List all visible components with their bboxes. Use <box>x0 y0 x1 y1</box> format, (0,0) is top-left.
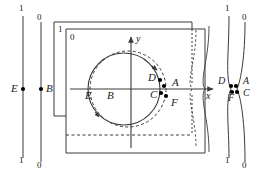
left-line-1-bottom-label: 1 <box>19 156 24 165</box>
point-F-circle <box>164 94 168 98</box>
label-D-right: D <box>218 76 225 86</box>
right-line-1-bottom-label: 1 <box>225 156 230 165</box>
label-C-circle: C <box>150 89 157 100</box>
point-D-circle <box>158 78 162 82</box>
label-B-circle: B <box>107 90 114 101</box>
label-F-circle: F <box>171 97 178 108</box>
label-E-circle: E <box>85 90 92 101</box>
point-A-circle <box>162 84 166 88</box>
label-F-right: F <box>228 93 234 103</box>
x-axis-label: x <box>206 91 210 101</box>
figure-diagram: 1 1 0 0 E B 1 0 y x D A C F E B 1 1 0 0 … <box>0 0 262 175</box>
point-A-right <box>234 84 238 88</box>
label-B-left: B <box>46 83 53 94</box>
label-C-right: C <box>243 88 250 98</box>
label-A-right: A <box>243 76 249 86</box>
left-line-1-top-label: 1 <box>19 4 24 13</box>
left-line-0-top-label: 0 <box>37 13 42 22</box>
right-line-1-top-label: 1 <box>225 4 230 13</box>
label-D-circle: D <box>148 72 156 83</box>
diagram-canvas <box>0 0 262 175</box>
point-C-right <box>235 90 239 94</box>
rect-front-label: 0 <box>70 33 75 42</box>
point-B-left <box>39 87 43 91</box>
y-axis-label: y <box>136 34 140 44</box>
point-D-right <box>229 84 233 88</box>
rect-back-label: 1 <box>58 25 63 34</box>
right-line-0-top-label: 0 <box>242 13 247 22</box>
point-E-left <box>21 87 25 91</box>
label-E-left: E <box>11 83 18 94</box>
left-line-0-bottom-label: 0 <box>37 161 42 170</box>
label-A-circle: A <box>172 77 179 88</box>
right-line-0-bottom-label: 0 <box>242 161 247 170</box>
point-C-circle <box>159 91 163 95</box>
